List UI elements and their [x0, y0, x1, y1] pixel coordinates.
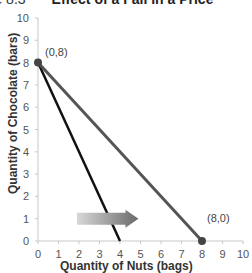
y-tick-label: 8 — [23, 57, 29, 69]
y-tick-label: 2 — [23, 190, 29, 202]
y-tick-label: 10 — [17, 12, 29, 24]
y-tick-label: 0 — [23, 235, 29, 247]
x-axis-label: Quantity of Nuts (bags) — [60, 259, 193, 273]
x-tick-label: 10 — [237, 248, 249, 260]
point-label: (0,8) — [45, 46, 68, 58]
point-marker-8-0 — [198, 237, 206, 245]
y-tick-label: 4 — [23, 146, 29, 158]
y-tick-label: 7 — [23, 79, 29, 91]
y-tick-label: 6 — [23, 101, 29, 113]
point-label: (8,0) — [207, 212, 230, 224]
x-tick-label: 9 — [219, 248, 225, 260]
y-tick-label: 9 — [23, 34, 29, 46]
point-marker-0-8 — [34, 59, 42, 67]
x-tick-label: 0 — [35, 248, 41, 260]
y-tick-label: 1 — [23, 213, 29, 225]
y-axis-label: Quantity of Chocolate (bars) — [6, 64, 20, 194]
y-tick-label: 3 — [23, 168, 29, 180]
y-tick-label: 5 — [23, 124, 29, 136]
x-tick-label: 8 — [199, 248, 205, 260]
